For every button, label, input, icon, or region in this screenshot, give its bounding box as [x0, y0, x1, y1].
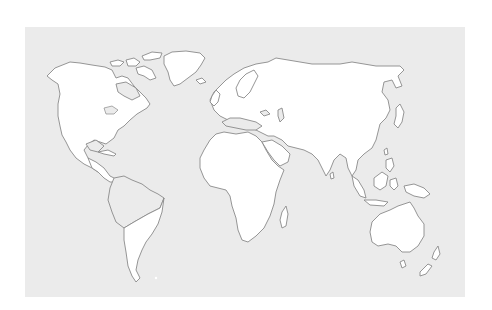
baffin-island-shape [136, 66, 156, 80]
philippines-shape [386, 158, 394, 172]
arctic-islands-1-shape [110, 60, 124, 66]
australia-shape [370, 202, 424, 252]
tasmania-shape [400, 260, 406, 268]
borneo-shape [374, 172, 388, 190]
world-outline-map [0, 0, 492, 310]
arctic-islands-2-shape [126, 58, 140, 66]
madagascar-shape [280, 206, 288, 228]
taiwan-shape [384, 148, 388, 155]
java-shape [364, 200, 388, 206]
arctic-islands-3-shape [142, 52, 162, 60]
new-zealand-north-shape [432, 246, 440, 260]
cuba-shape [98, 150, 116, 156]
small-dot-south-atlantic [155, 277, 157, 279]
sulawesi-shape [390, 178, 398, 190]
japan-shape [394, 104, 404, 128]
north-america-shape [47, 62, 150, 172]
sri-lanka-shape [330, 172, 334, 179]
new-guinea-shape [404, 184, 430, 198]
iceland-shape [196, 78, 206, 84]
sumatra-shape [352, 176, 366, 198]
new-zealand-south-shape [420, 264, 432, 276]
landmass-layer [47, 51, 440, 282]
marker-layer [155, 277, 157, 279]
